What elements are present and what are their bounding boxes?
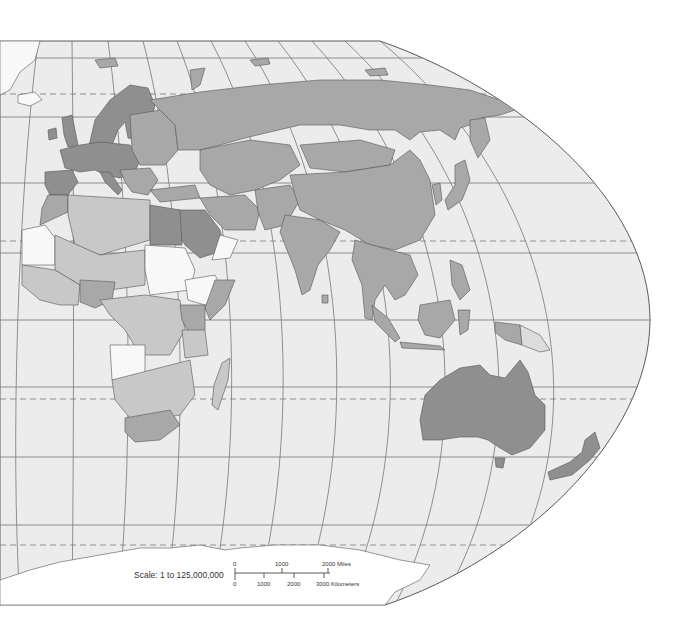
egypt [150, 205, 182, 245]
tanzania [182, 330, 208, 358]
km-tick-2000: 2000 [287, 581, 301, 587]
km-tick-1000: 1000 [257, 581, 271, 587]
km-tick-3000: 3000 Kilometers [316, 581, 359, 587]
tasmania [495, 458, 505, 468]
sri-lanka [322, 295, 328, 303]
miles-tick-1000: 1000 [275, 561, 289, 567]
world-map: Scale: 1 to 125,000,000 0 1000 2000 Mile… [0, 0, 687, 636]
ireland [48, 128, 57, 140]
miles-tick-2000: 2000 Miles [322, 561, 351, 567]
scale-label: Scale: 1 to 125,000,000 [134, 570, 224, 580]
